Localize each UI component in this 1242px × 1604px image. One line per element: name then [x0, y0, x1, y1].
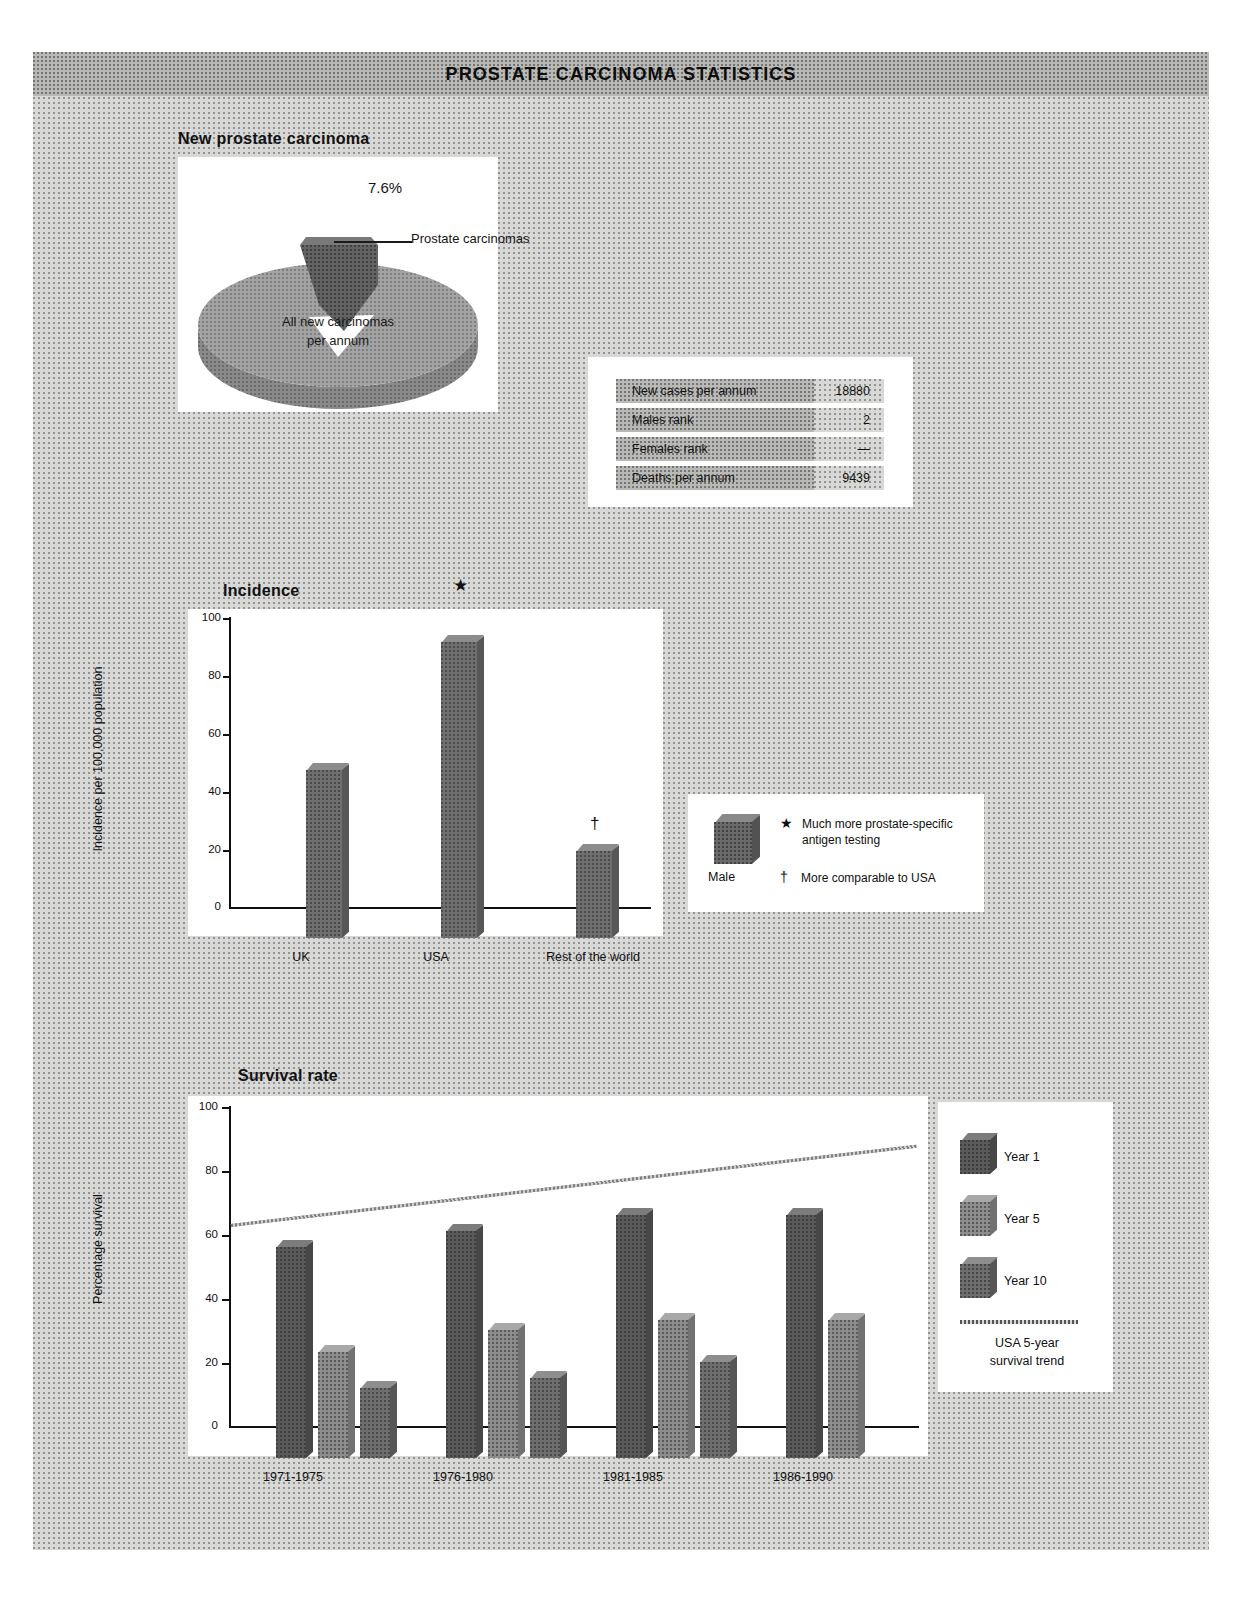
bar-face: [276, 1247, 306, 1458]
survival-ytick-40: 40: [190, 1292, 218, 1304]
swatch-side: [990, 1134, 997, 1174]
incidence-ytick-mark: [223, 734, 230, 736]
survival-ytick-mark: [222, 1171, 229, 1173]
bar-face: [360, 1388, 390, 1458]
survival-ytick-mark: [222, 1235, 229, 1237]
survival-ytick-0: 0: [190, 1419, 218, 1431]
survival-y-axis-label: Percentage survival: [91, 1149, 105, 1349]
survival-bar-1976-1980-year10: [530, 1378, 560, 1458]
incidence-annotation-rest: †: [590, 814, 599, 834]
incidence-note-dagger: † More comparable to USA: [780, 870, 975, 886]
bar-face: [446, 1231, 476, 1458]
statistics-table: New cases per annum 18880 Males rank 2 F…: [616, 379, 884, 495]
pie-base-label-line1: All new carcinomas: [282, 314, 394, 329]
survival-ytick-20: 20: [190, 1356, 218, 1368]
incidence-xlabel-rest: Rest of the world: [503, 950, 683, 964]
legend-label-year1: Year 1: [1004, 1150, 1040, 1164]
legend-item-year5: Year 5: [960, 1202, 1040, 1236]
bar-face: [488, 1330, 518, 1458]
incidence-ytick-0: 0: [193, 900, 221, 912]
incidence-y-axis-label: Incidence per 100,000 population: [91, 634, 105, 884]
survival-xlabel-2: 1976-1980: [393, 1470, 533, 1484]
table-cell-key: Females rank: [616, 437, 814, 461]
bar-side: [348, 1346, 355, 1458]
pie-base-label-line2: per annum: [307, 333, 369, 348]
bar-side: [342, 764, 349, 938]
incidence-ytick-20: 20: [193, 843, 221, 855]
incidence-bar-usa: [441, 642, 477, 938]
bar-side: [688, 1314, 695, 1458]
table-cell-key: Deaths per annum: [616, 466, 814, 490]
incidence-ytick-mark: [223, 618, 230, 620]
bar-side: [306, 1241, 313, 1458]
legend-item-year1: Year 1: [960, 1140, 1040, 1174]
survival-ytick-mark: [222, 1299, 229, 1301]
bar-side: [560, 1372, 567, 1458]
survival-bar-1976-1980-year1: [446, 1231, 476, 1458]
trend-legend-label-line2: survival trend: [990, 1354, 1064, 1368]
bar-side: [612, 845, 619, 938]
table-row: Males rank 2: [616, 408, 884, 432]
survival-xlabel-1: 1971-1975: [223, 1470, 363, 1484]
table-row: Females rank —: [616, 437, 884, 461]
incidence-ytick-mark: [223, 792, 230, 794]
swatch-side: [990, 1258, 997, 1298]
bar-face: [530, 1378, 560, 1458]
page-title: PROSTATE CARCINOMA STATISTICS: [33, 52, 1209, 96]
survival-bar-1981-1985-year1: [616, 1215, 646, 1458]
survival-xlabel-3: 1981-1985: [563, 1470, 703, 1484]
survival-ytick-mark: [222, 1107, 229, 1109]
survival-y-axis: [229, 1106, 231, 1428]
incidence-xlabel-usa: USA: [396, 950, 476, 964]
incidence-ytick-mark: [223, 850, 230, 852]
pie-percent-label: 7.6%: [368, 179, 402, 196]
swatch-face: [714, 822, 752, 864]
bar-face: [576, 851, 612, 938]
table-cell-value: 9439: [814, 466, 884, 490]
table-row: Deaths per annum 9439: [616, 466, 884, 490]
swatch-face: [960, 1202, 990, 1236]
statistics-table-card: New cases per annum 18880 Males rank 2 F…: [588, 357, 913, 507]
incidence-ytick-100: 100: [193, 611, 221, 623]
bar-face: [306, 770, 342, 938]
survival-bar-1981-1985-year5: [658, 1320, 688, 1458]
poster-title-bar: PROSTATE CARCINOMA STATISTICS: [33, 52, 1209, 96]
incidence-note-dagger-text: More comparable to USA: [801, 870, 936, 886]
poster-content: New prostate carcinoma: [33, 112, 1209, 1550]
pie-section-title: New prostate carcinoma: [178, 130, 370, 148]
survival-chart-card: 100 80 60 40 20 0: [188, 1096, 928, 1456]
incidence-ytick-40: 40: [193, 785, 221, 797]
incidence-chart-card: 100 80 60 40 20 0: [188, 609, 663, 936]
bar-face: [658, 1320, 688, 1458]
swatch-side: [990, 1196, 997, 1236]
pie-base-label: All new carcinomas per annum: [178, 312, 498, 350]
survival-bar-1971-1975-year10: [360, 1388, 390, 1458]
table-cell-key: Males rank: [616, 408, 814, 432]
bar-face: [441, 642, 477, 938]
year5-swatch: [960, 1202, 990, 1236]
survival-bar-1971-1975-year5: [318, 1352, 348, 1458]
swatch-side: [752, 815, 760, 864]
survival-bar-1986-1990-year5: [828, 1320, 858, 1458]
incidence-ytick-mark: [223, 676, 230, 678]
incidence-section-title: Incidence: [223, 582, 300, 600]
incidence-annotation-usa: ★: [453, 575, 468, 596]
bar-side: [646, 1209, 653, 1458]
star-icon: ★: [780, 816, 793, 848]
dagger-icon: †: [780, 870, 792, 886]
survival-bar-1986-1990-year1: [786, 1215, 816, 1458]
survival-bar-1976-1980-year5: [488, 1330, 518, 1458]
bar-face: [616, 1215, 646, 1458]
male-legend-label: Male: [708, 870, 735, 884]
legend-label-year10: Year 10: [1004, 1274, 1047, 1288]
bar-face: [318, 1352, 348, 1458]
trend-legend-label: USA 5-year survival trend: [952, 1334, 1102, 1370]
incidence-note-star-text: Much more prostate-specific antigen test…: [802, 816, 970, 848]
incidence-note-star: ★ Much more prostate-specific antigen te…: [780, 816, 970, 848]
year1-swatch: [960, 1140, 990, 1174]
male-bar-swatch: [714, 822, 752, 864]
swatch-face: [960, 1264, 990, 1298]
swatch-face: [960, 1140, 990, 1174]
survival-xlabel-4: 1986-1990: [733, 1470, 873, 1484]
bar-side: [477, 636, 484, 938]
